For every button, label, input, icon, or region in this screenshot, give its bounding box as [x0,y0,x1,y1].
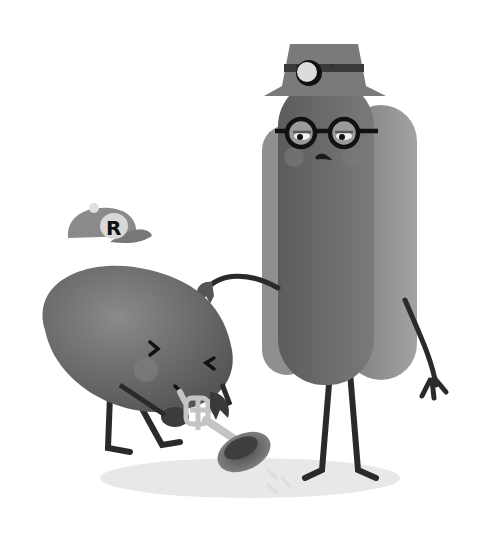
hot-dog-cheek-left [284,147,304,167]
baseball-cap: R [68,203,152,243]
bean-cheek [134,358,158,382]
headlamp-icon [296,60,322,86]
cap-letter-r: R [106,216,121,240]
hot-dog-right-leg [350,372,376,478]
hot-dog-cheek-right [342,147,362,167]
fedora-hat [264,44,386,96]
hot-dog-character [197,44,446,478]
hot-dog-right-hand [422,380,446,398]
illustration: R [0,0,486,541]
bean-character: R [43,203,277,480]
hot-dog-mouth [316,155,328,158]
